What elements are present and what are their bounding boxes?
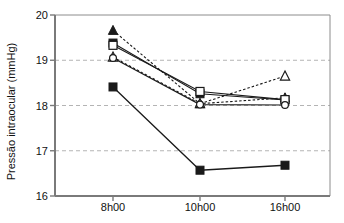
series-6-filled-square-low-marker <box>281 161 289 169</box>
series-6-filled-square-low-marker <box>109 83 117 91</box>
series-6-filled-square-low-marker <box>196 166 204 174</box>
x-axis-tick-label: 10h00 <box>185 201 216 213</box>
x-axis-tick-labels: 8h0010h0016h00 <box>0 201 344 221</box>
x-axis-tick-label: 16h00 <box>270 201 301 213</box>
series-1-filled-triangle-marker <box>108 25 117 34</box>
series-4-open-triangle-marker <box>280 71 289 80</box>
series-3-open-square-marker <box>196 87 204 95</box>
series-3-open-square-marker <box>109 41 117 49</box>
x-axis-tick-label: 8h00 <box>101 201 125 213</box>
chart-figure: Pressão intraocular (mmHg) 1617181920 8h… <box>0 0 344 223</box>
series-5-open-circle-marker <box>197 101 204 108</box>
series-5-open-circle-marker <box>282 102 289 109</box>
plot-area <box>0 0 344 223</box>
series-5-open-circle-marker <box>110 55 117 62</box>
